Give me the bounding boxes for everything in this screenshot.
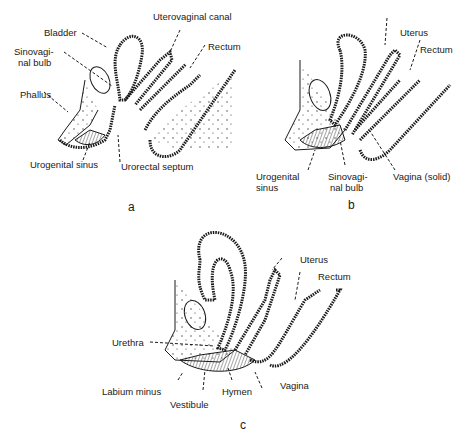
panel-b-drawing: [285, 18, 450, 170]
label-urogenital-sinus-2: sinus: [256, 183, 278, 193]
label-vestibule: Vestibule: [170, 400, 209, 410]
panel-letter-a: a: [128, 200, 135, 214]
label-vagina-solid: Vagina (solid): [393, 172, 450, 182]
label-urethra: Urethra: [112, 338, 144, 348]
label-uterus: Uterus: [300, 255, 328, 265]
label-labium-minus: Labium minus: [102, 387, 161, 397]
label-sinovaginal-bulb-2: nal bulb: [18, 58, 51, 68]
label-rectum: Rectum: [420, 45, 453, 55]
embryology-diagram: Bladder Uterovaginal canal Sinovagi- nal…: [0, 0, 476, 438]
label-rectum: Rectum: [208, 42, 241, 52]
label-sinovaginal-bulb-1: Sinovagi-: [14, 47, 54, 57]
panel-letter-b: b: [348, 198, 355, 212]
panel-a-drawing: [44, 30, 235, 162]
label-sinovaginal-bulb-2: nal bulb: [330, 183, 363, 193]
label-urogenital-sinus-1: Urogenital: [256, 172, 299, 182]
label-urogenital-sinus: Urogenital sinus: [30, 160, 98, 170]
diagram-drawing: [0, 0, 476, 438]
label-rectum: Rectum: [318, 272, 351, 282]
panel-letter-c: c: [240, 418, 246, 432]
label-sinovaginal-bulb-1: Sinovagi-: [328, 172, 368, 182]
label-uterovaginal-canal: Uterovaginal canal: [153, 12, 232, 22]
label-hymen: Hymen: [222, 387, 252, 397]
label-phallus: Phallus: [20, 90, 51, 100]
label-urorectal-septum: Urorectal septum: [121, 162, 193, 172]
label-bladder: Bladder: [44, 28, 77, 38]
label-uterus: Uterus: [400, 28, 428, 38]
label-vagina: Vagina: [280, 381, 309, 391]
